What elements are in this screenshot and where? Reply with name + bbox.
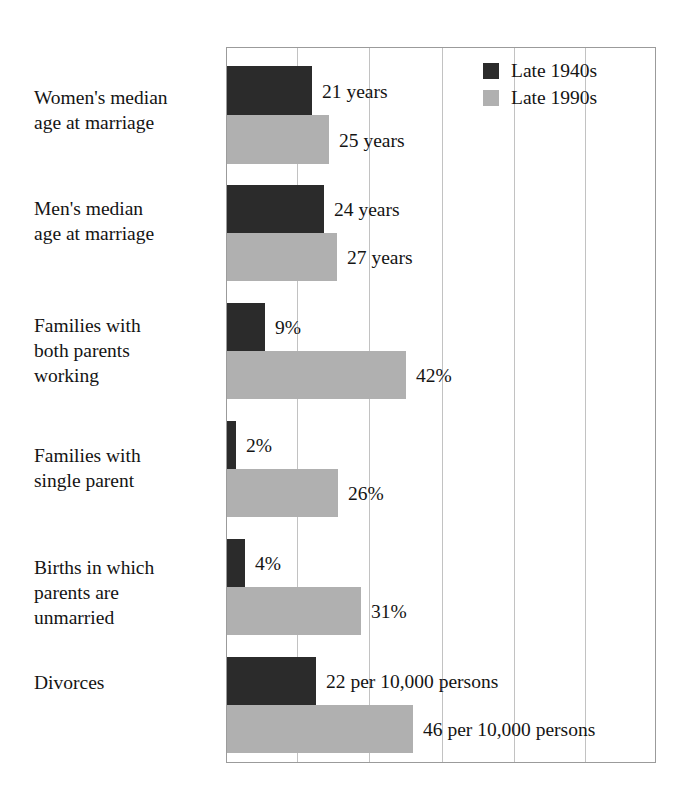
category-label-line: Births in which xyxy=(34,555,222,580)
category-label-divorces: Divorces xyxy=(34,670,222,695)
legend-swatch-icon-late-1940s xyxy=(483,63,499,79)
bar-value-dark-row-0: 21 years xyxy=(322,82,388,102)
bar-value-light-row-2: 42% xyxy=(416,366,452,386)
bar-dark-row-5 xyxy=(227,657,316,705)
plot-area: 21 years 25 years 24 years 27 years 9% 4… xyxy=(226,47,656,763)
bar-value-dark-row-4: 4% xyxy=(255,554,281,574)
category-label-line: single parent xyxy=(34,468,222,493)
bar-light-row-1 xyxy=(227,233,337,281)
category-label-line: Families with xyxy=(34,313,222,338)
bar-dark-row-3 xyxy=(227,421,236,469)
bar-light-row-3 xyxy=(227,469,338,517)
bar-dark-row-2 xyxy=(227,303,265,351)
category-label-line: both parents xyxy=(34,338,222,363)
chart-page: 21 years 25 years 24 years 27 years 9% 4… xyxy=(0,0,696,808)
category-label-line: Families with xyxy=(34,443,222,468)
bar-light-row-4 xyxy=(227,587,361,635)
category-label-line: Divorces xyxy=(34,670,222,695)
category-label-line: working xyxy=(34,363,222,388)
gridline-3 xyxy=(442,48,443,762)
bar-light-row-2 xyxy=(227,351,406,399)
bar-value-dark-row-1: 24 years xyxy=(334,200,400,220)
category-label-single-parent: Families with single parent xyxy=(34,443,222,493)
bar-value-light-row-1: 27 years xyxy=(347,248,413,268)
category-label-line: age at marriage xyxy=(34,110,222,135)
legend-item-late-1990s: Late 1990s xyxy=(483,84,643,111)
bar-value-dark-row-2: 9% xyxy=(275,318,301,338)
bar-value-dark-row-5: 22 per 10,000 persons xyxy=(326,672,498,692)
category-label-line: age at marriage xyxy=(34,221,222,246)
legend-label-late-1940s: Late 1940s xyxy=(511,61,597,81)
bar-dark-row-4 xyxy=(227,539,245,587)
legend-label-late-1990s: Late 1990s xyxy=(511,88,597,108)
bar-dark-row-1 xyxy=(227,185,324,233)
category-label-mens-median-age: Men's median age at marriage xyxy=(34,196,222,246)
category-label-both-parents-working: Families with both parents working xyxy=(34,313,222,388)
bar-value-light-row-4: 31% xyxy=(371,602,407,622)
bar-light-row-5 xyxy=(227,705,413,753)
bar-value-light-row-5: 46 per 10,000 persons xyxy=(423,720,595,740)
legend: Late 1940s Late 1990s xyxy=(483,57,643,111)
bar-light-row-0 xyxy=(227,115,329,164)
gridline-4 xyxy=(514,48,515,762)
category-label-line: unmarried xyxy=(34,605,222,630)
bar-value-dark-row-3: 2% xyxy=(246,436,272,456)
category-label-line: parents are xyxy=(34,580,222,605)
bar-dark-row-0 xyxy=(227,66,312,115)
category-label-line: Women's median xyxy=(34,85,222,110)
category-label-womens-median-age: Women's median age at marriage xyxy=(34,85,222,135)
legend-swatch-icon-late-1990s xyxy=(483,90,499,106)
category-label-line: Men's median xyxy=(34,196,222,221)
category-label-unmarried-births: Births in which parents are unmarried xyxy=(34,555,222,630)
bar-value-light-row-3: 26% xyxy=(348,484,384,504)
legend-item-late-1940s: Late 1940s xyxy=(483,57,643,84)
gridline-5 xyxy=(585,48,586,762)
gridline-2 xyxy=(369,48,370,762)
bar-value-light-row-0: 25 years xyxy=(339,131,405,151)
